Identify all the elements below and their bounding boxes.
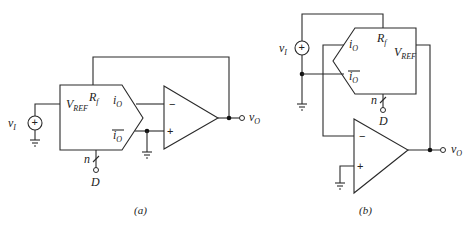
digital-input-label-b: D (378, 114, 388, 128)
vref-wire-b (416, 45, 430, 150)
ground-icon (335, 183, 345, 189)
source-label-a: vI (8, 116, 16, 132)
opamp-noninverting-b: + (357, 160, 363, 172)
ground-icon (30, 140, 40, 146)
output-terminal-a (240, 116, 245, 121)
ground-icon (142, 152, 152, 158)
source-label-b: vI (279, 41, 287, 57)
panel-b: + vI iO iO Rf VREF n D − + (279, 14, 462, 217)
bus-label-a: n (84, 152, 90, 166)
vref-wire-a (35, 104, 60, 116)
digital-input-label-a: D (90, 175, 100, 189)
caption-b: (b) (359, 204, 372, 217)
dac-opamp-figure: + vI VREF Rf iO iO n D − (0, 0, 476, 230)
output-terminal-b (441, 148, 446, 153)
junction-dot-b2 (428, 148, 433, 153)
junction-dot-a2 (227, 116, 232, 121)
caption-a: (a) (134, 204, 147, 217)
source-polarity-b: + (299, 41, 305, 53)
dac-block-a (60, 85, 143, 150)
output-label-a: vO (249, 110, 260, 126)
source-polarity-a: + (32, 116, 38, 128)
ground-icon (297, 104, 307, 110)
opamp-a (164, 86, 218, 149)
digital-terminal-b (381, 108, 386, 113)
noninv-ground-wire-b (340, 166, 354, 183)
bus-label-b: n (371, 93, 377, 107)
opamp-noninverting-a: + (167, 125, 173, 137)
panel-a: + vI VREF Rf iO iO n D − (8, 57, 260, 217)
opamp-inverting-a: − (169, 98, 175, 110)
dac-block-b (333, 28, 416, 94)
digital-terminal-a (94, 168, 99, 173)
output-label-b: vO (451, 142, 462, 158)
opamp-inverting-b: − (359, 130, 365, 142)
